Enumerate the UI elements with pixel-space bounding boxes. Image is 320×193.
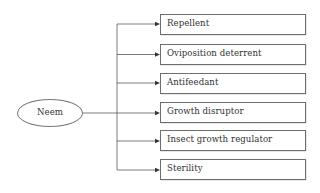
root-node-label: Neem — [18, 107, 82, 117]
branch-node-insect-growth-regulator: Insect growth regulator — [160, 130, 306, 151]
branch-node-sterility: Sterility — [160, 159, 306, 180]
branch-node-repellent: Repellent — [160, 14, 306, 35]
branch-label: Growth disruptor — [167, 106, 244, 116]
branch-label: Oviposition deterrent — [167, 48, 262, 58]
branch-node-oviposition-deterrent: Oviposition deterrent — [160, 44, 306, 65]
branch-label: Repellent — [167, 18, 209, 28]
branch-label: Antifeedant — [167, 77, 218, 87]
branch-node-antifeedant: Antifeedant — [160, 73, 306, 94]
root-node-neem: Neem — [17, 99, 83, 127]
branch-label: Sterility — [167, 163, 203, 173]
branch-label: Insect growth regulator — [167, 134, 272, 144]
branch-node-growth-disruptor: Growth disruptor — [160, 102, 306, 123]
